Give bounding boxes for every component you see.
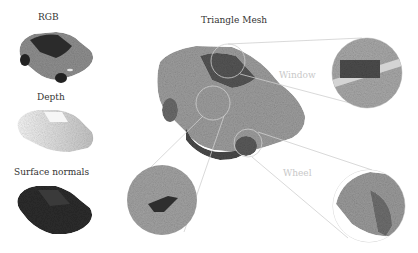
depth-car-image <box>18 110 94 152</box>
callout-window-zoom <box>332 38 402 108</box>
callout-side-zoom <box>127 165 197 235</box>
rgb-car-image <box>20 32 94 83</box>
callout-wheel-zoom <box>333 170 405 242</box>
figure-canvas <box>0 0 418 253</box>
normals-car-image <box>17 186 92 234</box>
mesh-car-image <box>157 46 305 160</box>
